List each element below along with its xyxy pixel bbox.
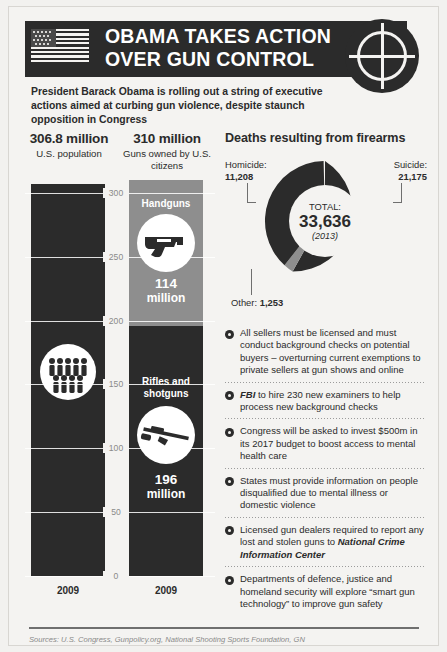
bullet-icon — [225, 526, 234, 535]
divider — [225, 468, 425, 469]
bullet-icon — [225, 391, 234, 400]
title-line-1: OBAMA TAKES ACTION — [105, 25, 355, 48]
divider — [225, 418, 425, 419]
population-label: U.S. population — [25, 148, 113, 160]
total-year: (2013) — [312, 231, 338, 242]
y-axis-tick: 200 — [103, 316, 129, 326]
page-title: OBAMA TAKES ACTION OVER GUN CONTROL — [105, 25, 355, 71]
segment-handguns-unit: million — [129, 292, 203, 304]
list-item-text: All sellers must be licensed and must co… — [240, 327, 425, 377]
bar-population — [31, 184, 105, 576]
bullet-icon — [225, 428, 234, 437]
crosshair-target-icon — [345, 19, 419, 93]
segment-handguns-label: Handguns — [129, 198, 203, 210]
handgun-icon — [137, 214, 195, 272]
donut-center-total: TOTAL: 33,636 (2013) — [289, 185, 361, 257]
leader-line-homicide — [247, 183, 248, 203]
x-axis-label-guns: 2009 — [123, 585, 209, 596]
guns-label: Guns owned by U.S. citizens — [119, 148, 215, 172]
title-line-2: OVER GUN CONTROL — [105, 48, 355, 71]
population-value: 306.8 million — [25, 131, 113, 146]
footer-divider — [29, 627, 419, 629]
leader-line-suicide — [401, 183, 402, 203]
subheadline: President Barack Obama is rolling out a … — [31, 85, 331, 127]
list-item: Departments of defence, justice and home… — [225, 573, 425, 610]
list-item-text: Licensed gun dealers required to report … — [240, 524, 425, 561]
suicide-label: Suicide: — [394, 159, 427, 170]
y-axis-tick: 300 — [103, 188, 129, 198]
bullet-icon — [225, 477, 234, 486]
segment-rifles-value: 196 — [129, 472, 203, 487]
segment-handguns: Handguns 114 million — [129, 180, 203, 326]
homicide-value: 11,208 — [225, 171, 253, 182]
total-value: 33,636 — [299, 212, 351, 231]
y-axis-tick: 50 — [103, 507, 129, 517]
y-axis-tick: 150 — [103, 379, 129, 389]
x-axis-label-population: 2009 — [25, 585, 111, 596]
leader-line-homicide-foot — [247, 202, 256, 203]
rifle-icon — [137, 406, 195, 464]
callout-homicide: Homicide: 11,208 — [225, 159, 289, 182]
homicide-label: Homicide: — [225, 159, 267, 170]
list-item-text: FBI to hire 230 new examiners to help pr… — [240, 389, 425, 414]
segment-rifles-unit: million — [129, 488, 203, 500]
people-group-icon — [40, 344, 96, 400]
suicide-value: 21,175 — [398, 171, 427, 182]
y-axis-tick: 0 — [103, 571, 129, 581]
list-item: FBI to hire 230 new examiners to help pr… — [225, 389, 425, 414]
column-heading-guns: 310 million Guns owned by U.S. citizens — [119, 131, 215, 172]
bullet-icon — [225, 330, 234, 339]
divider — [225, 382, 425, 383]
leader-line-suicide-foot — [393, 202, 402, 203]
action-list: All sellers must be licensed and must co… — [225, 327, 425, 615]
list-item-text: Departments of defence, justice and home… — [240, 573, 425, 610]
flag-canton-icon — [31, 29, 56, 47]
list-item: Congress will be asked to invest $500m i… — [225, 425, 425, 462]
infographic-page: OBAMA TAKES ACTION OVER GUN CONTROL Pres… — [0, 0, 447, 652]
infographic-sheet: OBAMA TAKES ACTION OVER GUN CONTROL Pres… — [8, 6, 439, 646]
list-item: All sellers must be licensed and must co… — [225, 327, 425, 377]
y-axis-tick: 250 — [103, 252, 129, 262]
list-item: States must provide information on peopl… — [225, 475, 425, 512]
divider — [225, 566, 425, 567]
bar-chart-plot: Handguns 114 million Rifles and shotguns — [25, 180, 215, 576]
leader-line-other — [251, 269, 252, 295]
y-axis-tick: 100 — [103, 443, 129, 453]
sources-text: Sources: U.S. Congress, Gunpolicy.org, N… — [29, 635, 305, 644]
bar-guns: Handguns 114 million Rifles and shotguns — [129, 180, 203, 576]
callout-other: Other: 1,253 — [231, 297, 341, 309]
other-label: Other: — [231, 297, 257, 308]
total-label: TOTAL: — [309, 201, 341, 212]
list-item-text: States must provide information on peopl… — [240, 475, 425, 512]
other-value: 1,253 — [260, 297, 283, 308]
segment-rifles-label: Rifles and shotguns — [129, 376, 203, 400]
donut-section-header: Deaths resulting from firearms — [225, 131, 425, 145]
us-flag-icon — [31, 29, 89, 63]
segment-handguns-value: 114 — [129, 276, 203, 291]
guns-value: 310 million — [119, 131, 215, 146]
donut-title: Deaths resulting from firearms — [225, 131, 425, 145]
divider — [225, 517, 425, 518]
list-item-text: Congress will be asked to invest $500m i… — [240, 425, 425, 462]
column-heading-population: 306.8 million U.S. population — [25, 131, 113, 160]
callout-suicide: Suicide: 21,175 — [371, 159, 427, 182]
list-item: Licensed gun dealers required to report … — [225, 524, 425, 561]
bullet-icon — [225, 576, 234, 585]
segment-rifles: Rifles and shotguns 196 million — [129, 326, 203, 576]
donut-chart-area: TOTAL: 33,636 (2013) Homicide: 11,208 Su… — [225, 151, 425, 321]
